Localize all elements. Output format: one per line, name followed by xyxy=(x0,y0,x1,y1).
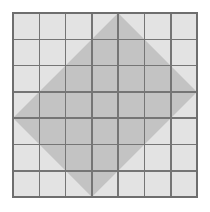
grid-diagram xyxy=(0,0,210,212)
figure-container xyxy=(0,0,210,212)
